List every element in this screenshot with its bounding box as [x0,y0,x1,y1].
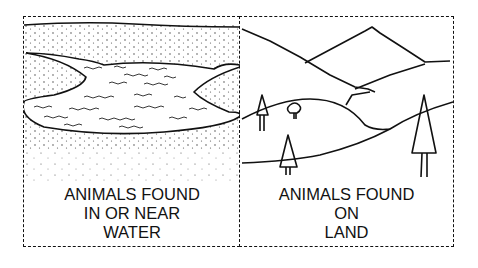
water-panel: ANIMALS FOUND IN OR NEAR WATER [23,16,240,247]
land-panel: ANIMALS FOUND ON LAND [239,16,454,247]
land-label: ANIMALS FOUND ON LAND [240,185,453,242]
water-label: ANIMALS FOUND IN OR NEAR WATER [24,185,240,242]
pond-illustration [24,17,240,187]
landscape-illustration [240,17,453,187]
